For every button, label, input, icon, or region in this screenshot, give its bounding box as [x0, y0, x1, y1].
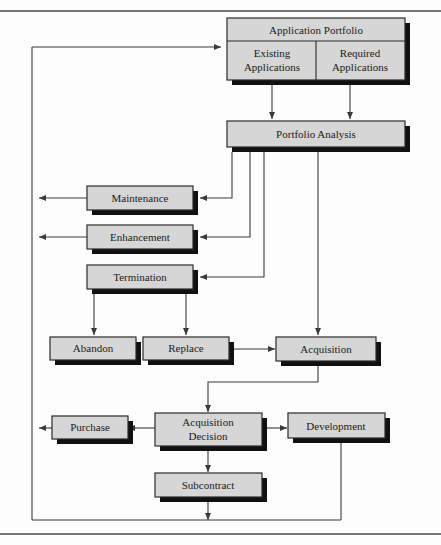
portfolio-analysis-label: Portfolio Analysis	[276, 128, 356, 140]
flowchart-svg: Application Portfolio Existing Applicati…	[0, 0, 441, 545]
existing-applications-label-line1: Existing	[254, 47, 291, 59]
acquisition-label: Acquisition	[300, 343, 352, 355]
termination-label: Termination	[113, 271, 167, 283]
required-applications-label-line1: Required	[340, 47, 381, 59]
subcontract-label: Subcontract	[182, 479, 235, 491]
node-replace[interactable]: Replace	[143, 337, 234, 365]
node-acquisition-decision[interactable]: Acquisition Decision	[155, 413, 267, 451]
required-applications-label-line2: Applications	[332, 61, 388, 73]
enhancement-label: Enhancement	[110, 231, 170, 243]
node-acquisition[interactable]: Acquisition	[276, 337, 381, 366]
purchase-label: Purchase	[70, 421, 110, 433]
application-portfolio-label: Application Portfolio	[269, 24, 363, 36]
node-application-portfolio[interactable]: Application Portfolio Existing Applicati…	[227, 18, 410, 85]
replace-label: Replace	[168, 342, 204, 354]
node-abandon[interactable]: Abandon	[50, 337, 141, 365]
node-portfolio-analysis[interactable]: Portfolio Analysis	[227, 121, 410, 152]
node-termination[interactable]: Termination	[87, 265, 198, 294]
acquisition-decision-label-line1: Acquisition	[182, 416, 234, 428]
node-maintenance[interactable]: Maintenance	[87, 186, 198, 215]
node-purchase[interactable]: Purchase	[52, 416, 133, 444]
abandon-label: Abandon	[73, 342, 114, 354]
node-subcontract[interactable]: Subcontract	[155, 473, 267, 502]
node-enhancement[interactable]: Enhancement	[87, 225, 198, 254]
node-development[interactable]: Development	[288, 413, 390, 443]
acquisition-decision-label-line2: Decision	[188, 430, 228, 442]
diagram-canvas: Application Portfolio Existing Applicati…	[0, 0, 441, 545]
existing-applications-label-line2: Applications	[244, 61, 300, 73]
development-label: Development	[306, 420, 365, 432]
maintenance-label: Maintenance	[112, 192, 169, 204]
